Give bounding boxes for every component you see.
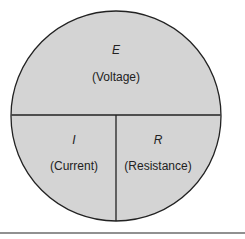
voltage-symbol: E <box>112 43 120 57</box>
resistance-symbol: R <box>154 133 163 147</box>
current-symbol: I <box>72 133 75 147</box>
resistance-label: (Resistance) <box>124 159 191 173</box>
ohms-law-circle <box>0 0 245 239</box>
voltage-label: (Voltage) <box>92 70 140 84</box>
current-label: (Current) <box>50 159 98 173</box>
